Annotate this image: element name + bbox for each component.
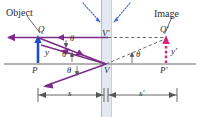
ray-horizontal-arrowhead-mid [57, 34, 64, 40]
dimension-sp-arrow-right [169, 92, 176, 98]
image-arrow-head [162, 35, 169, 44]
point-p-prime-label: P′ [160, 66, 167, 75]
height-y-label: y [45, 48, 49, 57]
object-label: Object [6, 8, 33, 18]
mirror-band [101, 0, 112, 117]
point-q-label: Q [38, 25, 45, 34]
point-v-label: V [104, 66, 110, 75]
point-p-label: P [32, 66, 38, 75]
distance-s-prime-label: s′ [139, 89, 144, 98]
angle-indicators [64, 40, 133, 75]
height-y-prime-label: y′ [171, 47, 177, 56]
ray-reflected-V [45, 64, 106, 86]
theta-label-4: θ [136, 50, 140, 59]
point-q-prime-label: Q′ [160, 25, 168, 34]
point-v-prime-label: V′ [102, 29, 109, 38]
image-label: Image [154, 9, 179, 19]
theta-label-3: θ [67, 66, 71, 75]
dimension-s-arrow-left [39, 92, 46, 98]
distance-s-label: s [68, 89, 72, 98]
theta-label-1: θ [70, 34, 74, 43]
ray-reflected-arrowhead [43, 83, 53, 89]
theta-label-2: θ [62, 50, 66, 59]
optics-ray-diagram: Object Image Q Q′ P P′ V V′ y y′ θ θ θ θ… [0, 0, 198, 117]
ray-horizontal-arrowhead-left [7, 34, 15, 41]
ray-reflected-upper [41, 45, 106, 64]
